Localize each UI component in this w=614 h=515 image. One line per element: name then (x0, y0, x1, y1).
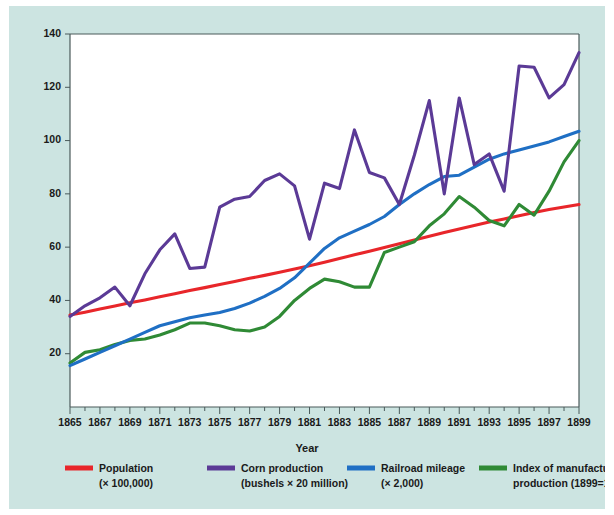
y-tick-label: 100 (43, 133, 61, 145)
x-tick-label: 1871 (148, 416, 172, 428)
x-tick-label: 1867 (88, 416, 112, 428)
line-chart: 20406080100120140 1865186718691871187318… (9, 6, 605, 509)
legend-label: Corn production (241, 462, 323, 474)
x-tick-label: 1881 (298, 416, 322, 428)
legend-sublabel: (× 100,000) (99, 477, 153, 489)
x-tick-label: 1889 (418, 416, 442, 428)
x-tick-label: 1895 (507, 416, 531, 428)
x-tick-label: 1897 (537, 416, 561, 428)
legend-label: Index of manufacturing (513, 462, 605, 474)
chart-figure: 20406080100120140 1865186718691871187318… (9, 6, 605, 509)
legend-sublabel: (bushels × 20 million) (241, 477, 348, 489)
y-tick-label: 40 (49, 293, 61, 305)
x-tick-label: 1869 (118, 416, 142, 428)
legend-sublabel: production (1899=100) (513, 477, 605, 489)
y-tick-label: 60 (49, 240, 61, 252)
x-tick-label: 1899 (567, 416, 591, 428)
y-tick-label: 140 (43, 27, 61, 39)
x-tick-label: 1883 (328, 416, 352, 428)
y-tick-label: 80 (49, 187, 61, 199)
y-tick-label: 120 (43, 80, 61, 92)
legend-label: Railroad mileage (381, 462, 465, 474)
x-tick-label: 1879 (268, 416, 292, 428)
legend-label: Population (99, 462, 153, 474)
x-tick-label: 1877 (238, 416, 262, 428)
x-tick-label: 1891 (448, 416, 472, 428)
y-tick-label: 20 (49, 346, 61, 358)
x-axis-title: Year (295, 442, 319, 454)
legend-sublabel: (× 2,000) (381, 477, 423, 489)
x-tick-label: 1893 (477, 416, 501, 428)
x-tick-label: 1873 (178, 416, 202, 428)
x-tick-label: 1887 (388, 416, 412, 428)
x-tick-label: 1885 (358, 416, 382, 428)
x-tick-label: 1865 (58, 416, 82, 428)
x-tick-label: 1875 (208, 416, 232, 428)
